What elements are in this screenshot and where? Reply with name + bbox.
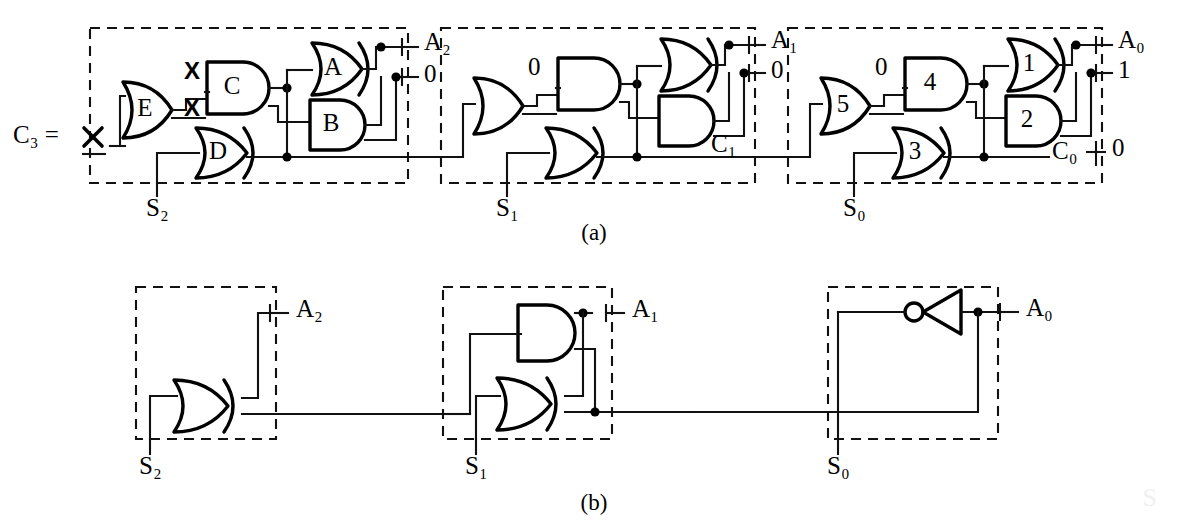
wire-part-b-s2-to-A2 [242,313,276,398]
part-b-stage-label-s0: S₀ [827,452,850,479]
part-a-gate-b: B [310,100,365,150]
junction-A1 [724,40,733,49]
part-a-annotation-x-lower: X [184,94,200,121]
part-a-output-label-1-b3: 1 [1118,56,1131,83]
wire-g5-out-upper [870,95,903,106]
wire-b2-and-to-and2 [620,102,661,118]
circuit-figure: E X X C A B [0,0,1179,531]
junction-carry-b2 [632,152,641,161]
part-a-gate-3-label: 3 [909,137,922,164]
wire-b2-and2-out-up [714,73,729,121]
part-a-gate-4-label: 4 [924,68,937,95]
wire-b-out-up [365,77,381,125]
part-a-gate-e: E [123,82,172,138]
part-a-output-label-0-b1: 0 [424,60,437,87]
part-a-stage-label-s0: S₀ [843,194,866,221]
part-b-gate-xor-s1 [497,378,556,430]
part-b-gate-xor-s2 [174,380,233,432]
part-a-gate-e-label: E [137,94,152,121]
part-a-gate-3: 3 [893,128,950,178]
part-a-output-label-C1: C₁ [711,130,736,157]
part-a-stage-label-s2: S₂ [146,194,169,221]
wire-b2-or-out-upper [523,95,556,106]
part-a-output-label-A2: A₂ [424,28,451,55]
part-a-gate-a: A [312,43,368,95]
part-a-gate-c-label: C [224,72,241,99]
part-a-annotation-x-upper: X [184,57,200,84]
junction-carry-b3 [979,152,988,161]
wire-g2-out-to-1 [1061,73,1102,136]
part-a-gate-5: 5 [821,78,870,134]
part-a-b3-annotation-0: 0 [875,53,888,80]
part-b-caption: (b) [581,490,608,515]
part-b-gate-and-s1 [518,305,575,361]
part-a-b2-gate-xor-out [661,39,717,91]
wire-part-b-s0-feedback [694,312,978,412]
part-a-output-label-A1: A₁ [771,26,798,53]
junction-A2 [376,42,385,51]
part-a-caption: (a) [581,220,607,245]
part-a-gate-d-label: D [209,137,227,164]
part-a-output-label-C0: C₀ [1052,137,1077,164]
part-b-output-label-A0: A₀ [1026,294,1053,321]
circuit-canvas: E X X C A B [0,0,1179,531]
junction-A0 [1071,40,1080,49]
part-a-gate-2-label: 2 [1021,105,1034,132]
part-a-b2-gate-or [474,78,523,134]
part-b-output-label-A2: A₂ [296,295,323,322]
wire-b-out-to-0 [365,77,408,140]
part-a-b2-gate-xor-carry [546,128,603,178]
wire-s2-to-d [157,153,199,183]
part-a-gate-4: 4 [905,58,967,110]
page-watermark: S [1143,483,1157,513]
part-a-gate-d: D [196,128,253,178]
part-a-input-label-c3: C₃ = [13,121,59,148]
wire-s1-to-xor-carry [507,153,549,183]
part-a-stage-label-s1: S₁ [496,194,519,221]
part-b-output-label-A1: A₁ [632,295,659,322]
wire-part-b-s1-xor-in [476,396,500,439]
part-a-output-label-0-b2: 0 [771,56,784,83]
part-a-output-label-A0: A₀ [1118,26,1145,53]
wire-g4-to-g2 [967,102,1008,118]
wire-g2-out-up [1061,73,1076,121]
part-b-stage-label-s1: S₁ [465,452,488,479]
part-a-gate-5-label: 5 [837,90,850,117]
part-a-b2-gate-and [558,58,620,110]
junction-0-out-a-b2 [739,68,748,77]
part-b-gate-not-s0 [905,290,961,334]
wire-c-to-b [269,106,312,122]
part-a-gate-c: C [207,62,269,114]
wire-b2-and2-out-to-0 [714,73,755,136]
wire-part-b-and-down [575,349,595,412]
part-a-gate-1: 1 [1008,39,1064,91]
part-a-b2-gate-and2 [659,96,714,146]
part-a-gate-a-label: A [324,53,342,80]
part-a-input-xmark [84,128,102,146]
part-a-output-value-C0: 0 [1112,134,1125,161]
junction-carry-b1 [282,152,291,161]
part-a-b2-annotation-0: 0 [528,53,541,80]
junction-0-out-a-b1 [391,72,400,81]
junction-1-out-a-b3 [1086,68,1095,77]
junction-part-b-s1-chain [590,407,599,416]
part-a-gate-b-label: B [323,109,340,136]
part-b-stage-label-s2: S₂ [139,452,162,479]
part-a-gate-1-label: 1 [1023,49,1036,76]
wire-s0-to-g3 [854,153,896,183]
